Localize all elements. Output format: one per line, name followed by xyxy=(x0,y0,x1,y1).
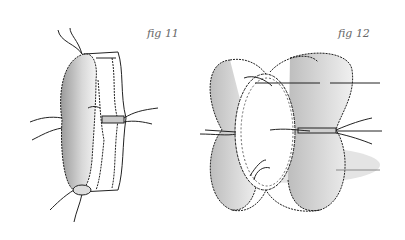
fig12-drawing xyxy=(200,53,382,211)
fig12-caption: fig 12 xyxy=(337,27,370,40)
fig11-caption: fig 11 xyxy=(146,27,179,40)
ribbon-illustration-svg: fig 11 xyxy=(0,0,405,240)
illustration: fig 11 xyxy=(0,0,405,240)
fig11-drawing xyxy=(30,28,158,222)
